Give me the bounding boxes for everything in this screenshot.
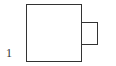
large-square: [26, 4, 82, 62]
small-square: [81, 22, 98, 45]
figure-label: 1: [6, 47, 12, 59]
